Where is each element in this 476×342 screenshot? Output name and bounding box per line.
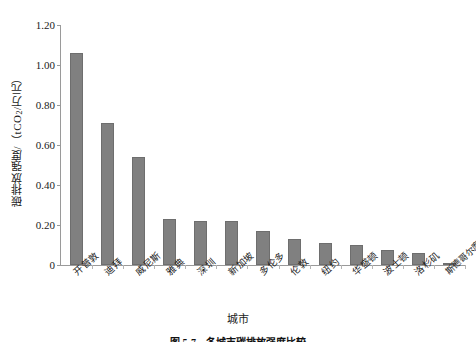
y-axis-tick-mark (57, 65, 61, 66)
y-axis-tick-mark (57, 185, 61, 186)
y-axis-tick-label: 0.60 (36, 140, 55, 151)
figure-caption: 图 5-7 各城市碳排放强度比较 (0, 334, 476, 342)
x-axis-title: 城市 (0, 310, 476, 326)
y-axis-tick-label: 1.00 (36, 60, 55, 71)
chart-figure: 碳排放强度/（tCO2/万元） 00.200.400.600.801.001.2… (0, 0, 476, 342)
y-axis-tick-label: 0.80 (36, 100, 55, 111)
bar (70, 53, 83, 265)
y-axis-tick-label: 0 (50, 260, 56, 271)
bar (132, 157, 145, 265)
y-axis-tick-mark (57, 145, 61, 146)
y-axis-tick-mark (57, 105, 61, 106)
y-axis-tick-labels: 00.200.400.600.801.001.20 (22, 18, 55, 272)
bar (101, 123, 114, 265)
y-axis-tick-label: 0.40 (36, 180, 55, 191)
y-axis-tick-mark (57, 25, 61, 26)
x-axis-tick-labels: 开普敦迪拜威尼斯雅典深圳新加坡多伦多伦敦纽约华盛顿波士顿洛杉矶斯德哥尔摩 (60, 268, 465, 314)
x-axis-tick-mark (465, 265, 466, 269)
bar-series (61, 25, 465, 265)
plot-area (60, 25, 465, 266)
y-axis-tick-mark (57, 265, 61, 266)
y-axis-tick-label: 1.20 (36, 20, 55, 31)
y-axis-tick-label: 0.20 (36, 220, 55, 231)
y-axis-tick-mark (57, 225, 61, 226)
